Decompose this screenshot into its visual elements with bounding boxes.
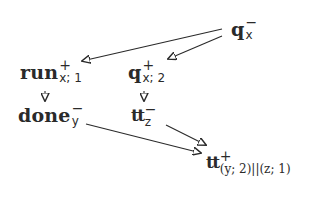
node-q-x2: q+x; 2: [128, 63, 143, 82]
node-sub: y: [72, 115, 79, 127]
node-base: tt: [206, 152, 219, 172]
node-tt-z: tt−z: [131, 107, 145, 124]
node-sup: +: [59, 58, 71, 72]
node-done-y: done−y: [18, 106, 72, 125]
node-run-x1: run+x; 1: [20, 63, 59, 82]
node-sub: z: [145, 116, 151, 128]
node-sub: x; 1: [59, 72, 82, 84]
node-sub: x: [246, 29, 253, 41]
edge-done-to-tt-join: [86, 124, 201, 153]
node-sup: +: [143, 58, 155, 72]
node-sup: −: [72, 101, 84, 115]
node-sup: +: [220, 149, 232, 163]
node-sub: (y; 2)||(z; 1): [220, 163, 291, 175]
node-base: done: [18, 104, 71, 126]
node-sup: −: [246, 15, 258, 29]
node-base: tt: [131, 105, 144, 125]
node-base: q: [231, 18, 245, 40]
event-structure-diagram: q−x run+x; 1 q+x; 2 done−y tt−z tt+(y; 2…: [0, 0, 311, 199]
node-base: run: [20, 61, 58, 83]
node-base: q: [128, 61, 142, 83]
node-sup: −: [145, 102, 157, 116]
edge-tt-to-tt-join: [166, 125, 206, 145]
node-q-x: q−x: [231, 20, 246, 39]
node-tt-join: tt+(y; 2)||(z; 1): [206, 154, 220, 171]
node-sub: x; 2: [143, 72, 166, 84]
